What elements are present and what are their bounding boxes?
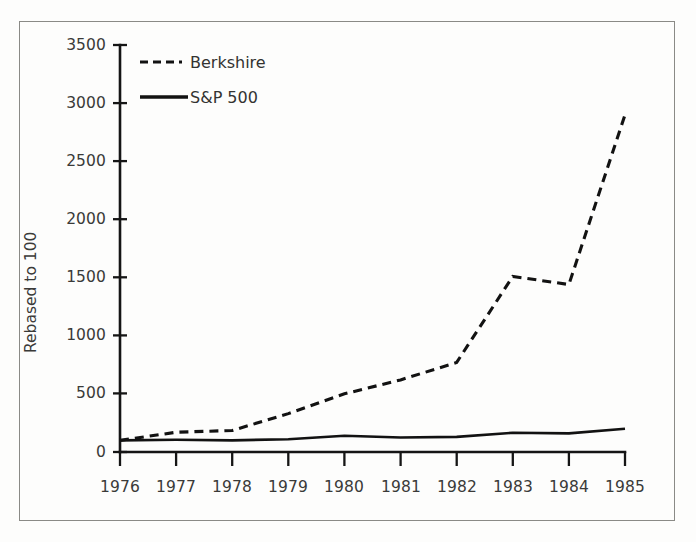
x-tick-marks: [120, 452, 625, 466]
y-tick-label-3000: 3000: [30, 94, 106, 112]
y-tick-label-2500: 2500: [30, 152, 106, 170]
y-axis-title: Rebased to 100: [22, 232, 40, 353]
y-tick-label-0: 0: [30, 443, 106, 461]
series-line-berkshire: [120, 115, 625, 441]
y-tick-label-2000: 2000: [30, 210, 106, 228]
x-tick-label-1985: 1985: [591, 478, 659, 496]
y-tick-label-1500: 1500: [30, 268, 106, 286]
y-tick-label-500: 500: [30, 384, 106, 402]
y-tick-label-3500: 3500: [30, 36, 106, 54]
legend-label-berkshire: Berkshire: [190, 53, 266, 72]
legend-label-sp500: S&P 500: [190, 88, 258, 107]
chart-figure: 3500 3000 2500 2000 1500 1000 500 0 1976…: [0, 0, 696, 542]
y-tick-label-1000: 1000: [30, 326, 106, 344]
